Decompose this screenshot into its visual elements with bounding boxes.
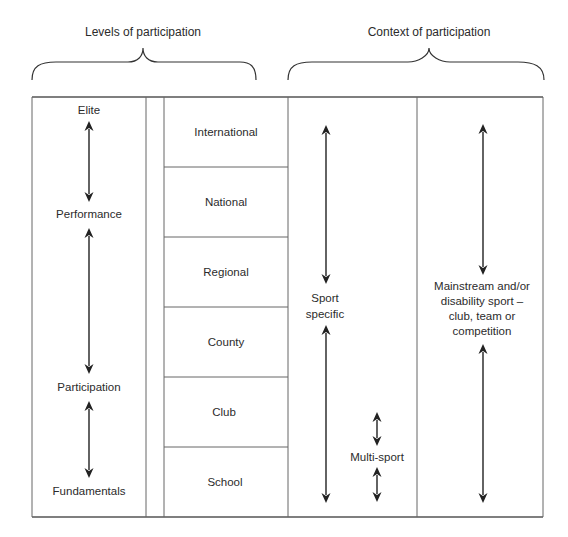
level-school: School <box>207 476 242 488</box>
levels-brace <box>32 48 256 80</box>
level-county: County <box>208 336 245 348</box>
mainstream-line1: Mainstream and/or <box>434 280 530 292</box>
arrow-mainstream-upper <box>479 124 488 275</box>
level-regional: Regional <box>203 266 248 278</box>
sport-specific-line1: Sport <box>311 292 339 304</box>
arrow-multi-sport-upper <box>373 412 382 446</box>
header-context: Context of participation <box>368 25 491 39</box>
level-national: National <box>205 196 247 208</box>
mainstream-line4: competition <box>453 325 512 337</box>
arrows-group <box>85 121 488 503</box>
sport-specific-line2: specific <box>306 308 345 320</box>
arrow-sport-specific-lower <box>322 325 331 503</box>
header-levels: Levels of participation <box>85 25 201 39</box>
mainstream-line2: disability sport – <box>441 295 524 307</box>
stage-fundamentals: Fundamentals <box>53 485 126 497</box>
level-club: Club <box>212 406 236 418</box>
mainstream-line3: club, team or <box>449 310 516 322</box>
multi-sport-label: Multi-sport <box>350 451 404 463</box>
arrow-multi-sport-lower <box>373 467 382 502</box>
arrow-elite-performance <box>85 121 94 202</box>
arrow-sport-specific-upper <box>322 125 331 284</box>
participation-diagram: Levels of participation Context of parti… <box>0 0 568 537</box>
arrow-mainstream-lower <box>479 344 488 503</box>
context-brace <box>288 48 544 80</box>
arrow-participation-fundamentals <box>85 401 94 478</box>
level-international: International <box>194 126 257 138</box>
stage-elite: Elite <box>78 104 100 116</box>
stage-participation: Participation <box>57 381 120 393</box>
stage-performance: Performance <box>56 208 122 220</box>
arrow-performance-participation <box>85 228 94 374</box>
